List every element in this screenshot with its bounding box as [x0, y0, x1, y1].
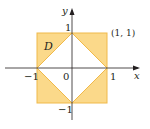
- tick-y-pos: 1: [65, 22, 71, 33]
- corner-label: (1, 1): [111, 28, 135, 38]
- tick-origin: 0: [63, 71, 69, 82]
- axis-x-label: x: [134, 70, 140, 81]
- tick-x-neg: −1: [24, 71, 39, 82]
- tick-x-pos: 1: [110, 71, 116, 82]
- diagram-canvas: y x 1 −1 −1 1 0 D (1, 1): [0, 0, 150, 129]
- region-label: D: [43, 40, 53, 53]
- axis-y-label: y: [61, 5, 68, 16]
- tick-y-neg: −1: [58, 104, 73, 115]
- y-axis-arrow-icon: [70, 8, 75, 15]
